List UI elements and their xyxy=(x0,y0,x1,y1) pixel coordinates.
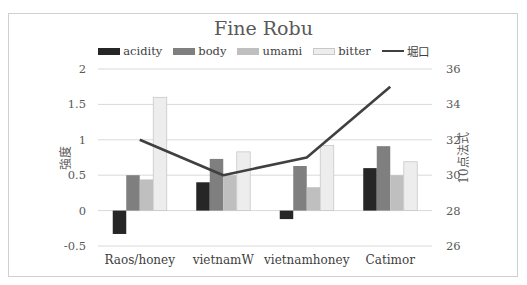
bar-body xyxy=(210,159,224,211)
right-tick-label: 36 xyxy=(446,62,461,76)
left-tick-label: 1.5 xyxy=(68,97,86,111)
bar-umami xyxy=(390,175,404,210)
left-tick-label: 1 xyxy=(79,133,86,147)
category-label: vietnamhoney xyxy=(263,253,350,267)
bar-umami xyxy=(223,175,237,210)
left-tick-label: -0.5 xyxy=(64,239,86,253)
bar-bitter xyxy=(404,162,418,211)
bar-umami xyxy=(140,179,154,210)
bar-umami xyxy=(307,187,321,210)
line-horiguchi xyxy=(140,87,391,176)
bar-acidity xyxy=(363,168,377,210)
category-label: vietnamW xyxy=(192,253,255,267)
bar-body xyxy=(293,166,307,211)
right-tick-label: 26 xyxy=(446,239,461,253)
bar-body xyxy=(377,146,391,210)
category-label: Raos/honey xyxy=(105,253,176,267)
category-axis-labels: Raos/honeyvietnamWvietnamhoneyCatimor xyxy=(105,253,416,267)
line-series xyxy=(140,87,391,176)
right-tick-label: 34 xyxy=(446,97,461,111)
category-label: Catimor xyxy=(366,253,416,267)
bar-bitter xyxy=(237,152,251,211)
bar-bitter xyxy=(320,145,334,210)
bar-acidity xyxy=(280,211,294,219)
right-axis-title: 10点法式 xyxy=(457,132,471,183)
bar-acidity xyxy=(113,211,127,234)
left-tick-label: 2 xyxy=(79,62,86,76)
bar-body xyxy=(126,175,140,210)
left-tick-label: 0 xyxy=(79,204,86,218)
left-axis-title: 強度 xyxy=(58,146,73,170)
right-tick-label: 28 xyxy=(446,204,461,218)
bar-acidity xyxy=(196,182,210,210)
bar-bitter xyxy=(153,97,167,210)
plot-area: 21.510.50-0.5 363432302826 Raos/honeyvie… xyxy=(0,0,527,285)
